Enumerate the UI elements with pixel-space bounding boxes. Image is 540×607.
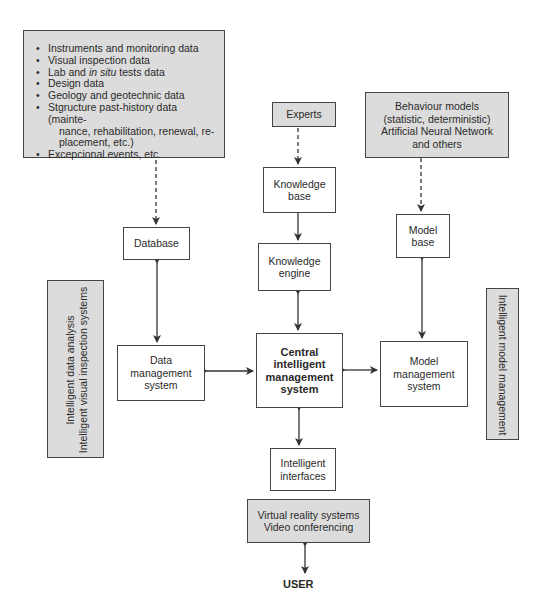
data-management-box: Datamanagementsystem [117, 345, 205, 401]
vr-video-box: Virtual reality systemsVideo conferencin… [247, 499, 370, 543]
central-management-box: Centralintelligentmanagementsystem [256, 333, 343, 408]
intelligent-model-management-panel: Intelligent model management [486, 288, 519, 440]
database-box: Database [123, 227, 190, 260]
knowledge-engine-box: Knowledgeengine [258, 243, 331, 291]
behaviour-models-box: Behaviour models(statistic, deterministi… [365, 92, 509, 158]
model-management-box: Modelmanagementsystem [380, 341, 468, 407]
data-sources-box: Instruments and monitoring data Visual i… [23, 30, 225, 158]
data-source-item: Stgructure past-history data (mainte-nan… [48, 102, 218, 149]
intelligent-interfaces-box: Intelligentinterfaces [270, 448, 336, 491]
knowledge-base-box: Knowledgebase [263, 167, 336, 213]
user-label: USER [283, 578, 314, 590]
data-source-item: Excepcional events, etc. [48, 149, 218, 161]
model-base-box: Modelbase [396, 214, 450, 258]
intelligent-data-analysis-panel: Intelligent data analysis Intelligent vi… [47, 280, 104, 458]
experts-box: Experts [272, 102, 336, 127]
